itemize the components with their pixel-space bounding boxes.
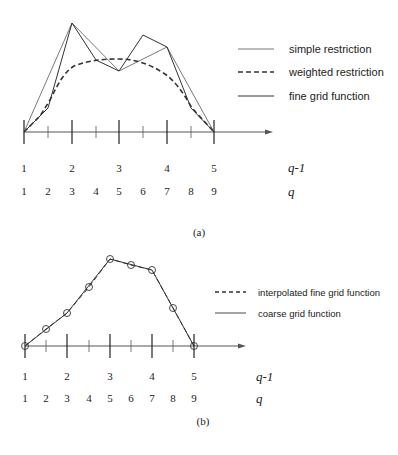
svg-text:9: 9 (211, 185, 217, 197)
caption-b: (b) (197, 415, 210, 428)
axis-arrow-icon (238, 344, 246, 349)
svg-text:8: 8 (170, 392, 176, 404)
svg-text:3: 3 (64, 392, 70, 404)
svg-text:5: 5 (116, 185, 122, 197)
svg-text:7: 7 (164, 185, 170, 197)
svg-text:1: 1 (21, 162, 27, 174)
panel-a: 1 2 3 4 5 q-1 1 2 3 4 5 6 7 8 9 q simple… (21, 23, 384, 239)
legend-label-simple: simple restriction (289, 43, 372, 55)
coarse-grid-function-line (25, 259, 194, 346)
legend-b: interpolated fine grid function coarse g… (215, 287, 380, 319)
svg-text:4: 4 (149, 370, 155, 382)
fine-axis-label-b: q (256, 391, 263, 406)
legend-label-fine: fine grid function (289, 90, 370, 102)
legend-a: simple restriction weighted restriction … (238, 43, 384, 102)
axis-arrow-icon (265, 130, 273, 135)
fine-axis-label-a: q (288, 184, 295, 199)
svg-text:6: 6 (128, 392, 134, 404)
svg-text:5: 5 (191, 370, 197, 382)
legend-label-weighted: weighted restriction (288, 66, 384, 78)
multigrid-figure: 1 2 3 4 5 q-1 1 2 3 4 5 6 7 8 9 q simple… (0, 0, 398, 455)
svg-text:5: 5 (211, 162, 217, 174)
svg-text:1: 1 (22, 370, 28, 382)
svg-text:4: 4 (86, 392, 92, 404)
svg-text:9: 9 (191, 392, 197, 404)
svg-text:8: 8 (188, 185, 194, 197)
svg-text:2: 2 (45, 185, 51, 197)
svg-text:3: 3 (69, 185, 75, 197)
svg-text:2: 2 (43, 392, 49, 404)
coarse-tick-labels-b: 1 2 3 4 5 (22, 370, 197, 382)
svg-text:2: 2 (69, 162, 75, 174)
coarse-axis-label-a: q-1 (288, 160, 305, 175)
panel-b: 1 2 3 4 5 q-1 1 2 3 4 5 6 7 8 9 q interp… (22, 256, 381, 429)
fine-tick-labels-a: 1 2 3 4 5 6 7 8 9 (21, 185, 217, 197)
fine-tick-labels-b: 1 2 3 4 5 6 7 8 9 (22, 392, 197, 404)
svg-text:4: 4 (93, 185, 99, 197)
svg-text:1: 1 (22, 392, 28, 404)
fine-grid-function-line (24, 23, 214, 132)
svg-text:3: 3 (116, 162, 122, 174)
coarse-axis-label-b: q-1 (256, 369, 273, 384)
svg-text:5: 5 (107, 392, 113, 404)
svg-text:6: 6 (140, 185, 146, 197)
simple-restriction-line (24, 23, 214, 132)
caption-a: (a) (193, 226, 206, 239)
svg-text:2: 2 (64, 370, 70, 382)
legend-label-interpolated: interpolated fine grid function (258, 287, 380, 298)
svg-text:3: 3 (107, 370, 113, 382)
svg-text:4: 4 (164, 162, 170, 174)
interpolated-fine-grid-line (25, 259, 194, 346)
legend-label-coarse: coarse grid function (258, 308, 341, 319)
svg-text:1: 1 (21, 185, 27, 197)
coarse-tick-labels-a: 1 2 3 4 5 (21, 162, 217, 174)
svg-text:7: 7 (149, 392, 155, 404)
